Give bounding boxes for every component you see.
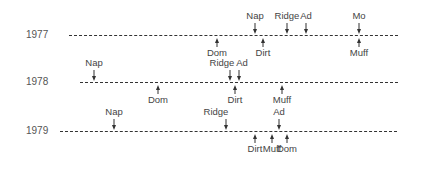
down-arrow-icon	[357, 29, 361, 34]
timeline-line-1977	[69, 35, 398, 36]
event-label-above: Ad	[236, 58, 248, 68]
event-label-above: Nap	[105, 107, 122, 117]
timeline-diagram: 1977 1978 1979 NapRidgeAdMoDomDirtMuffNa…	[0, 0, 422, 171]
down-arrow-icon	[304, 29, 308, 34]
event-label-above: Mo	[352, 11, 365, 21]
event-label-above: Ridge	[204, 107, 229, 117]
event-label-below: Dirt	[248, 144, 263, 154]
down-arrow-icon	[277, 125, 281, 130]
event-label-below: Dirt	[256, 48, 271, 58]
event-label-above: Ridge	[275, 11, 300, 21]
down-arrow-icon	[228, 76, 232, 81]
event-label-above: Nap	[246, 11, 263, 21]
down-arrow-icon	[224, 125, 228, 130]
down-arrow-icon	[285, 29, 289, 34]
event-label-above: Ad	[300, 11, 312, 21]
event-label-below: Muff	[273, 95, 291, 105]
down-arrow-icon	[237, 76, 241, 81]
event-label-below: Dom	[148, 95, 168, 105]
timeline-line-1978	[80, 82, 398, 83]
down-arrow-icon	[112, 125, 116, 130]
event-label-above: Ad	[273, 107, 285, 117]
year-label-1979: 1979	[26, 126, 48, 136]
event-label-above: Nap	[85, 58, 102, 68]
down-arrow-icon	[92, 76, 96, 81]
event-label-below: Dirt	[228, 95, 243, 105]
year-label-1978: 1978	[26, 77, 48, 87]
down-arrow-icon	[253, 29, 257, 34]
event-label-below: Dom	[277, 144, 297, 154]
event-label-above: Ridge	[210, 58, 235, 68]
event-label-below: Muff	[350, 48, 368, 58]
timeline-line-1979	[60, 131, 397, 132]
year-label-1977: 1977	[26, 30, 48, 40]
